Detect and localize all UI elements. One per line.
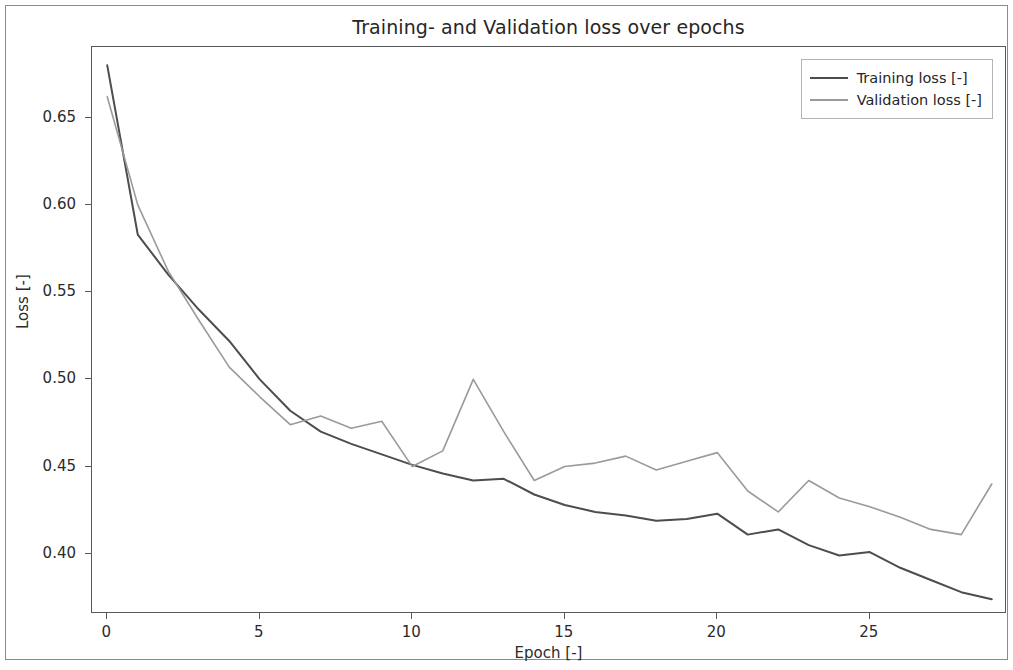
- legend-line-swatch: [810, 77, 848, 79]
- figure-frame: Training- and Validation loss over epoch…: [5, 5, 1008, 660]
- x-tick-label: 10: [402, 623, 421, 641]
- y-tick-label: 0.65: [6, 108, 76, 126]
- y-tick-label: 0.50: [6, 369, 76, 387]
- legend-label: Validation loss [-]: [857, 92, 982, 108]
- x-tick-label: 0: [101, 623, 111, 641]
- legend: Training loss [-]Validation loss [-]: [801, 59, 993, 119]
- legend-label: Training loss [-]: [857, 70, 968, 86]
- series-line: [107, 65, 992, 599]
- line-chart-svg: [92, 47, 1007, 614]
- x-tick-label: 20: [707, 623, 726, 641]
- x-tick-label: 15: [554, 623, 573, 641]
- series-line: [107, 97, 992, 535]
- y-tick-label: 0.40: [6, 544, 76, 562]
- y-tick-label: 0.45: [6, 457, 76, 475]
- plot-area: Training loss [-]Validation loss [-]: [91, 46, 1006, 613]
- legend-item[interactable]: Validation loss [-]: [810, 89, 982, 111]
- y-tick-label: 0.55: [6, 282, 76, 300]
- legend-line-swatch: [810, 99, 848, 101]
- x-tick-label: 5: [254, 623, 264, 641]
- chart-title: Training- and Validation loss over epoch…: [91, 16, 1006, 38]
- x-tick-label: 25: [859, 623, 878, 641]
- legend-item[interactable]: Training loss [-]: [810, 67, 982, 89]
- x-axis-label: Epoch [-]: [91, 644, 1006, 662]
- y-tick-label: 0.60: [6, 195, 76, 213]
